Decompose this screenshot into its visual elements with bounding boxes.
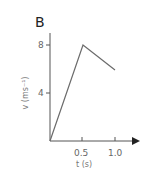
x-axis-label: t (s) (76, 160, 92, 169)
velocity-time-chart: 8 4 0.5 1.0 t (s) v (ms⁻¹) (0, 0, 143, 181)
y-axis-label: v (ms⁻¹) (21, 77, 30, 110)
x-tick-label-1.0: 1.0 (108, 148, 123, 158)
x-tick-label-0.5: 0.5 (74, 148, 88, 158)
x-axis-arrow-icon (132, 137, 140, 145)
y-tick-label-8: 8 (38, 40, 44, 50)
velocity-line (50, 45, 115, 141)
y-tick-label-4: 4 (38, 88, 44, 98)
